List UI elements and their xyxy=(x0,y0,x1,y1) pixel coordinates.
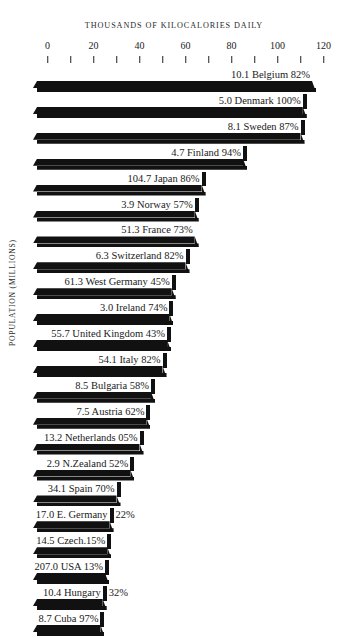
bar-row: 51.3 France 73% xyxy=(0,223,348,249)
bar-riser xyxy=(163,353,167,368)
bar-riser xyxy=(100,612,104,627)
x-axis-tick-label: 100 xyxy=(270,40,285,51)
bar-shadow xyxy=(37,218,199,222)
bar-row: 17.0 E. Germany22% xyxy=(0,508,348,534)
bar-row-percent: 32% xyxy=(109,586,128,599)
bar-row: 55.7 United Kingdom 43% xyxy=(0,327,348,353)
bar-face xyxy=(33,236,195,243)
bar-riser xyxy=(301,120,305,135)
bar-row-label: 17.0 E. Germany xyxy=(36,508,108,521)
bar-row-label: 6.3 Switzerland 82% xyxy=(96,249,184,262)
bar-row-label: 8.7 Cuba 97% xyxy=(39,612,99,625)
bar-row: 3.0 Ireland 74% xyxy=(0,301,348,327)
bar-face xyxy=(33,314,169,321)
bar xyxy=(33,495,117,506)
bar-row-label: 54.1 Italy 82% xyxy=(98,353,160,366)
bar xyxy=(33,599,103,610)
bar-face xyxy=(33,185,202,192)
bar-row: 54.1 Italy 82% xyxy=(0,353,348,379)
bar-shadow xyxy=(37,477,134,481)
bar-row: 10.4 Hungary32% xyxy=(0,586,348,612)
bar-row-label: 2.9 N.Zealand 52% xyxy=(47,457,129,470)
x-axis-tick xyxy=(139,56,141,63)
bar-row-label: 3.0 Ireland 74% xyxy=(100,301,167,314)
bar-face xyxy=(33,625,100,632)
x-axis-tick xyxy=(300,56,302,63)
bar xyxy=(33,159,243,170)
bar-shadow xyxy=(37,554,111,558)
bar-riser xyxy=(130,457,134,472)
bar-row-label: 13.2 Netherlands 05% xyxy=(44,431,138,444)
bar-row: 104.7 Japan 86% xyxy=(0,172,348,198)
bar-face xyxy=(33,211,195,218)
bar-riser xyxy=(172,275,176,290)
bar-row-label: 34.1 Spain 70% xyxy=(48,482,115,495)
bar-row: 13.2 Netherlands 05% xyxy=(0,431,348,457)
bar-row-label: 3.9 Norway 57% xyxy=(121,198,192,211)
bar-row: 7.5 Austria 62% xyxy=(0,405,348,431)
bar-riser xyxy=(167,327,171,342)
bar-riser xyxy=(169,301,173,316)
bar xyxy=(33,211,195,222)
bar-row: 2.9 N.Zealand 52% xyxy=(0,457,348,483)
bar-face xyxy=(33,262,186,269)
x-axis-tick xyxy=(254,56,256,63)
bar xyxy=(33,418,146,429)
bar-shadow xyxy=(37,606,107,610)
bar-row-label: 8.5 Bulgaria 58% xyxy=(75,379,149,392)
bar-row: 8.5 Bulgaria 58% xyxy=(0,379,348,405)
bar-shadow xyxy=(37,528,114,532)
bar-row: 8.7 Cuba 97% xyxy=(0,612,348,638)
bar xyxy=(33,392,151,403)
bar-riser xyxy=(195,198,199,213)
bar-shadow xyxy=(37,88,316,92)
bar-row: 4.7 Finland 94% xyxy=(0,146,348,172)
x-axis-tick xyxy=(70,56,72,63)
bar-face xyxy=(33,444,140,451)
bar-riser xyxy=(146,405,150,420)
bar-shadow xyxy=(37,166,247,170)
bar-shadow xyxy=(37,399,155,403)
bar-row-label: 104.7 Japan 86% xyxy=(128,172,200,185)
bar xyxy=(33,236,195,247)
bar-row: 61.3 West Germany 45% xyxy=(0,275,348,301)
bar-face xyxy=(33,159,243,166)
x-axis-tick xyxy=(116,56,118,63)
bar xyxy=(33,262,186,273)
bar xyxy=(33,444,140,455)
bar xyxy=(33,288,172,299)
bar-face xyxy=(33,599,103,606)
bar-row: 8.1 Sweden 87% xyxy=(0,120,348,146)
bar xyxy=(33,185,202,196)
bar-row-label: 61.3 West Germany 45% xyxy=(65,275,170,288)
x-axis-tick xyxy=(162,56,164,63)
bar-face xyxy=(33,521,110,528)
bar-face xyxy=(33,470,130,477)
bar xyxy=(33,314,169,325)
bar-face xyxy=(33,547,107,554)
bar-row: 3.9 Norway 57% xyxy=(0,198,348,224)
bar-riser xyxy=(202,172,206,187)
bar-riser xyxy=(243,146,247,161)
x-axis-tick-label: 60 xyxy=(181,40,191,51)
bar-riser xyxy=(105,560,109,575)
bar-riser xyxy=(110,508,114,523)
x-axis-tick-label: 0 xyxy=(45,40,50,51)
bar xyxy=(33,470,130,481)
bar-row-label: 207.0 USA 13% xyxy=(34,560,103,573)
bar xyxy=(33,340,167,351)
bar xyxy=(33,625,100,636)
bar-riser xyxy=(117,482,121,497)
bar-row-label: 55.7 United Kingdom 43% xyxy=(51,327,165,340)
bar-riser xyxy=(107,534,111,549)
bar-face xyxy=(33,573,105,580)
bar-row-label: 10.4 Hungary xyxy=(43,586,101,599)
bar xyxy=(33,366,163,377)
bar-face xyxy=(33,392,151,399)
bar-row: 34.1 Spain 70% xyxy=(0,482,348,508)
bar-row: 10.1 Belgium 82% xyxy=(0,68,348,94)
bar-shadow xyxy=(37,114,307,118)
bar xyxy=(33,521,110,532)
bar-shadow xyxy=(37,373,167,377)
